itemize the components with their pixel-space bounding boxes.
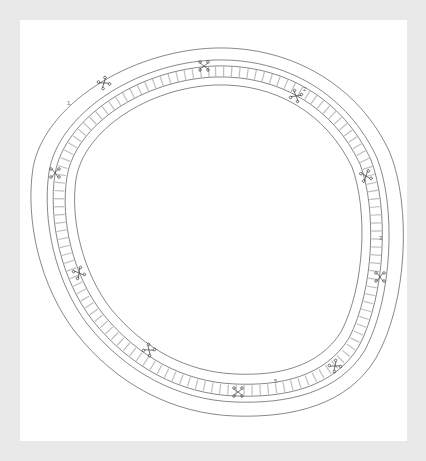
inner-track xyxy=(53,66,382,396)
ring-track-drawing: 1 2 3 5 xyxy=(0,0,426,461)
connector-right-upper xyxy=(359,169,373,183)
label-5: 5 xyxy=(274,378,278,384)
connector-left-upper xyxy=(50,168,61,179)
connectors xyxy=(50,61,386,398)
label-2: 2 xyxy=(303,86,307,92)
